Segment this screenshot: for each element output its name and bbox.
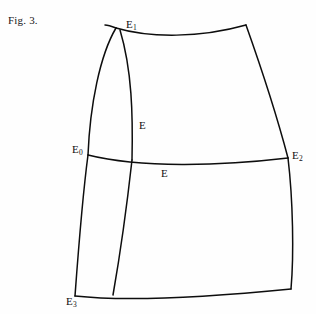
vertex-label-e3: E3: [66, 295, 76, 309]
figure-container: Fig. 3. E0 E1 E2 E3 E E: [0, 0, 316, 314]
curve-bottom-edge: [75, 289, 291, 298]
vertex-label-e2: E2: [292, 149, 302, 163]
edge-label-e-interior-upper: E: [139, 119, 146, 131]
vertex-label-e2-base: E: [292, 149, 299, 161]
curve-middle-horizontal: [88, 155, 288, 164]
curve-left-outer-tip: [105, 25, 116, 28]
curve-left-inner-lower: [113, 160, 132, 295]
curve-right-edge-upper: [246, 25, 288, 158]
vertex-label-e2-subscript: 2: [299, 154, 303, 163]
vertex-label-e1-subscript: 1: [133, 23, 137, 32]
vertex-label-e0-base: E: [72, 143, 79, 155]
vertex-label-e0-subscript: 0: [79, 148, 83, 157]
vertex-label-e0: E0: [72, 143, 82, 157]
vertex-label-e3-base: E: [66, 295, 73, 307]
edge-label-e-interior-lower: E: [161, 167, 168, 179]
curved-quadrilateral-diagram: [0, 0, 316, 314]
vertex-label-e1-base: E: [126, 18, 133, 30]
vertex-label-e3-subscript: 3: [73, 300, 77, 309]
curve-left-outer-lower: [75, 155, 88, 296]
curve-left-inner-upper: [120, 30, 132, 160]
curve-right-edge-lower: [288, 158, 293, 289]
vertex-label-e1: E1: [126, 18, 136, 32]
curve-left-outer-upper: [88, 28, 116, 155]
